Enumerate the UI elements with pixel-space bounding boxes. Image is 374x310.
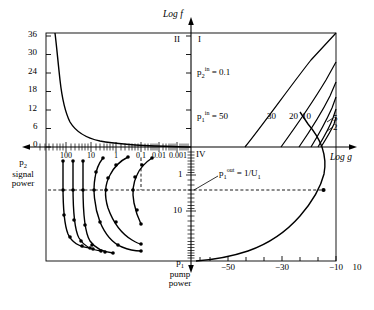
q3-curve-5 [106, 157, 141, 244]
ytick-6: 6 [33, 122, 38, 131]
annotation-pump-in-value: = 50 [212, 111, 228, 121]
p2-word-power: power [12, 178, 35, 188]
q3-curve-3 [83, 161, 113, 253]
quadrant-label-iv: IV [196, 150, 206, 159]
annotation-pump-in-sub: 1 [202, 116, 205, 123]
four-quadrant-figure: Log f Log g II I IV 36 30 24 18 12 6 0 1… [0, 0, 374, 310]
curve-label-2: 2 [333, 123, 338, 132]
axis-log-f [188, 17, 194, 147]
annotation-signal-in-value: = 0.1 [212, 67, 231, 77]
annotation-pump-out: p1out = 1/U1 [219, 167, 261, 181]
xtick-p2-1: 1 [110, 152, 122, 160]
xtick-q4-neg10: −10 [324, 263, 348, 272]
axis-title-p2-signal-power: p2 signal power [2, 158, 44, 188]
annotation-signal-in-sup: in [205, 66, 210, 72]
xtick-p2-10: 10 [83, 152, 99, 160]
axis-title-p1-pump-power: p1 pump power [165, 258, 195, 288]
xtick-p2-100: 100 [56, 152, 76, 160]
ytick-0: 0 [33, 140, 38, 149]
ytick-18: 18 [28, 85, 37, 94]
annotation-signal-in-sub: 2 [202, 72, 205, 79]
q3-curve-6 [133, 158, 152, 224]
q1-curve-50 [245, 33, 336, 147]
axis-title-log-g: Log g [330, 153, 352, 163]
q4-intersection-marker [321, 188, 325, 192]
ytick-12: 12 [28, 104, 37, 113]
xtick-p2-0.001: 0.001 [165, 152, 191, 160]
annotation-pump-in-sup: in [205, 110, 210, 116]
ytick-q4-10: 10 [173, 206, 182, 215]
axis-title-log-f: Log f [163, 10, 183, 20]
annotation-pump-out-value: = 1/U [237, 168, 258, 178]
annotation-pump-in: p1in = 50 [197, 110, 228, 124]
annotation-signal-in: p2in = 0.1 [197, 66, 230, 80]
q3-curve-family [63, 157, 152, 253]
xtick-q4-neg50: −50 [216, 263, 240, 272]
q3-curve-1 [63, 161, 90, 248]
quadrant-label-i: I [198, 35, 201, 44]
curve-label-30: 30 [267, 112, 276, 121]
quadrant-label-ii: II [174, 35, 180, 44]
axis-p1-pump [188, 147, 194, 273]
curve-label-20: 20 [289, 112, 298, 121]
ytick-36: 36 [28, 30, 37, 39]
ytick-24: 24 [28, 67, 37, 76]
ytick-30: 30 [28, 48, 37, 57]
annotation-pump-out-sub: 1 [224, 173, 227, 180]
q2-y-major-ticks [46, 36, 51, 147]
q2-conversion-curve [55, 33, 191, 147]
q3-curve-2 [73, 161, 101, 251]
q1-curve-30 [281, 62, 336, 147]
q4-pump-output-curve [196, 112, 325, 261]
p1-word-power: power [169, 278, 192, 288]
xtick-q4-neg30: −30 [270, 263, 294, 272]
xtick-q4-10: 10 [348, 263, 366, 272]
logf-axis-ticks [186, 36, 191, 129]
annotation-pump-out-value-sub: 1 [258, 173, 261, 180]
ytick-q4-1: 1 [178, 170, 183, 179]
q1-gain-curves [245, 33, 336, 147]
annotation-pump-out-sup: out [227, 167, 235, 173]
curve-label-10: 10 [302, 112, 311, 121]
axis-log-g [191, 144, 357, 150]
q4-annotation-leader [194, 176, 218, 190]
